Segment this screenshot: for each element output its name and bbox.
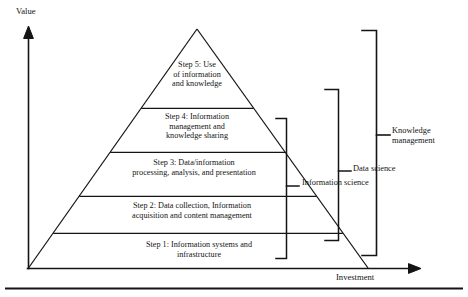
pyramid-tier-step1-label: Step 1: Information systems and infrastr… bbox=[78, 240, 320, 259]
y-axis-label: Value bbox=[16, 6, 64, 16]
pyramid-tier-step3-label: Step 3: Data/information processing, ana… bbox=[82, 158, 306, 177]
y-axis-arrowhead bbox=[24, 26, 34, 39]
bracket-label-data-science: Data science bbox=[353, 164, 463, 174]
bracket-label-information-science: Information science bbox=[302, 178, 422, 188]
pyramid-tier-step5-label: Step 5: Use of information and knowledge bbox=[139, 60, 255, 89]
bracket-data-science bbox=[325, 90, 351, 241]
pyramid-tier-step4-label: Step 4: Information management and knowl… bbox=[121, 112, 273, 141]
pyramid-figure: Value Investment Step 5: Use of informat… bbox=[0, 0, 468, 297]
pyramid-tier-step2-label: Step 2: Data collection, Information acq… bbox=[70, 201, 314, 220]
bracket-knowledge-management bbox=[362, 31, 390, 256]
x-axis-label: Investment bbox=[336, 272, 420, 282]
bracket-information-science bbox=[276, 119, 299, 259]
bracket-label-knowledge-management: Knowledge management bbox=[392, 126, 466, 146]
